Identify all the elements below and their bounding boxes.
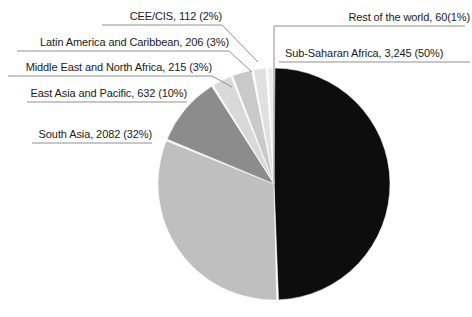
pie-slice <box>274 68 390 300</box>
slice-label-south-asia: South Asia, 2082 (32%) <box>32 128 152 141</box>
slice-label-middle-east: Middle East and North Africa, 215 (3%) <box>8 61 212 74</box>
slice-label-cee-cis: CEE/CIS, 112 (2%) <box>102 10 222 23</box>
pie-chart-figure: CEE/CIS, 112 (2%) Latin America and Cari… <box>0 0 472 317</box>
slice-label-east-asia: East Asia and Pacific, 632 (10%) <box>27 87 187 100</box>
slice-label-latin-america: Latin America and Caribbean, 206 (3%) <box>17 36 229 49</box>
leader-line-middle-east <box>8 76 232 87</box>
slice-label-sub-saharan: Sub-Saharan Africa, 3,245 (50%) <box>285 47 470 60</box>
slice-label-rest-of-world: Rest of the world, 60(1%) <box>325 11 470 24</box>
